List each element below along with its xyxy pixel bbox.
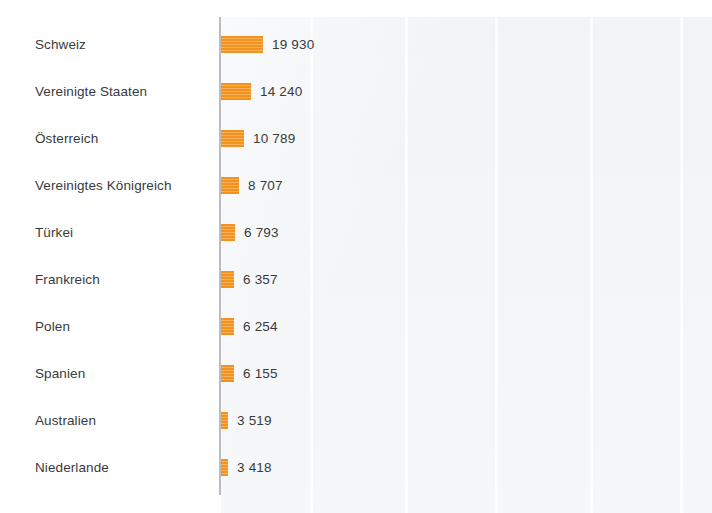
category-label: Vereinigte Staaten — [35, 84, 215, 99]
bar — [221, 130, 244, 147]
category-label: Spanien — [35, 366, 215, 381]
bar-rows: Schweiz19 930Vereinigte Staaten14 240Öst… — [0, 0, 712, 513]
value-label: 8 707 — [248, 178, 283, 193]
bar-with-value: 6 357 — [221, 271, 278, 288]
bar — [221, 365, 234, 382]
bar — [221, 177, 239, 194]
value-label: 19 930 — [272, 37, 315, 52]
bar-row: Frankreich6 357 — [0, 256, 712, 303]
bar-row: Türkei6 793 — [0, 209, 712, 256]
bar-row: Vereinigtes Königreich8 707 — [0, 162, 712, 209]
category-label: Vereinigtes Königreich — [35, 178, 215, 193]
bar-row: Niederlande3 418 — [0, 444, 712, 491]
value-label: 3 519 — [237, 413, 272, 428]
bar — [221, 271, 234, 288]
bar — [221, 36, 263, 53]
bar-row: Vereinigte Staaten14 240 — [0, 68, 712, 115]
category-label: Niederlande — [35, 460, 215, 475]
category-label: Australien — [35, 413, 215, 428]
bar-with-value: 19 930 — [221, 36, 315, 53]
bar-with-value: 6 155 — [221, 365, 278, 382]
category-label: Türkei — [35, 225, 215, 240]
value-label: 14 240 — [260, 84, 303, 99]
value-label: 6 155 — [243, 366, 278, 381]
bar — [221, 83, 251, 100]
bar-row: Australien3 519 — [0, 397, 712, 444]
category-label: Polen — [35, 319, 215, 334]
bar-row: Spanien6 155 — [0, 350, 712, 397]
bar — [221, 318, 234, 335]
bar-with-value: 6 793 — [221, 224, 279, 241]
category-label: Schweiz — [35, 37, 215, 52]
bar-with-value: 8 707 — [221, 177, 283, 194]
bar-row: Schweiz19 930 — [0, 21, 712, 68]
value-label: 6 793 — [244, 225, 279, 240]
category-label: Frankreich — [35, 272, 215, 287]
bar-chart: Schweiz19 930Vereinigte Staaten14 240Öst… — [0, 0, 712, 513]
value-label: 3 418 — [237, 460, 272, 475]
value-label: 10 789 — [253, 131, 296, 146]
bar-with-value: 10 789 — [221, 130, 296, 147]
bar — [221, 224, 235, 241]
bar-with-value: 14 240 — [221, 83, 303, 100]
bar-with-value: 6 254 — [221, 318, 278, 335]
bar-row: Österreich10 789 — [0, 115, 712, 162]
bar-with-value: 3 519 — [221, 412, 272, 429]
bar-row: Polen6 254 — [0, 303, 712, 350]
bar — [221, 459, 228, 476]
value-label: 6 357 — [243, 272, 278, 287]
category-label: Österreich — [35, 131, 215, 146]
bar-with-value: 3 418 — [221, 459, 272, 476]
bar — [221, 412, 228, 429]
value-label: 6 254 — [243, 319, 278, 334]
